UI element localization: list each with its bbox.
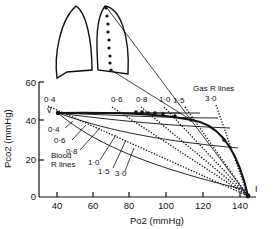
svg-text:140: 140 <box>232 200 248 211</box>
svg-text:3·0: 3·0 <box>205 94 217 103</box>
lung-diagram <box>56 6 128 78</box>
svg-text:80: 80 <box>124 200 135 211</box>
svg-text:0·4: 0·4 <box>48 125 60 134</box>
svg-text:1·0: 1·0 <box>159 95 171 104</box>
blood-r-title-2: R lines <box>51 160 75 169</box>
svg-text:0·6: 0·6 <box>54 136 66 145</box>
right-lung <box>97 6 128 74</box>
mixed-venous-point <box>56 111 60 115</box>
gas-r-lines <box>48 105 248 196</box>
inspired-label: I <box>255 184 258 194</box>
svg-text:1·0: 1·0 <box>88 158 100 167</box>
mixed-venous-label: v̄ <box>47 105 52 115</box>
blood-r-lines <box>58 113 246 190</box>
svg-text:0·8: 0·8 <box>136 95 148 104</box>
svg-text:0: 0 <box>31 191 36 202</box>
svg-text:60: 60 <box>25 77 36 88</box>
x-axis-label: Po2 (mmHg) <box>130 215 184 226</box>
blood-r-title-1: Blood <box>51 151 71 160</box>
svg-text:1·5: 1·5 <box>98 167 110 176</box>
svg-text:100: 100 <box>158 200 174 211</box>
blood-r-labels: 0·4 0·6 0·8 1·0 1·5 3·0 Blood R lines <box>48 125 127 178</box>
left-lung <box>56 6 92 78</box>
x-tick-labels: 40 60 80 100 120 140 <box>52 200 248 211</box>
svg-text:0·4: 0·4 <box>44 95 56 104</box>
lung-sample-points <box>104 6 112 71</box>
inspired-point <box>246 194 251 199</box>
svg-text:40: 40 <box>52 200 63 211</box>
o2-co2-diagram: 0 20 40 60 40 60 80 100 120 140 Po2 (mmH… <box>0 0 274 229</box>
y-axis-label: Pco2 (mmHg) <box>2 109 13 168</box>
svg-text:60: 60 <box>88 200 99 211</box>
gas-r-title: Gas R lines <box>193 84 234 93</box>
svg-text:0·6: 0·6 <box>111 95 123 104</box>
svg-text:120: 120 <box>195 200 211 211</box>
svg-text:40: 40 <box>25 115 36 126</box>
svg-text:1·5: 1·5 <box>173 96 185 105</box>
svg-text:20: 20 <box>25 154 36 165</box>
svg-text:3·0: 3·0 <box>115 169 127 178</box>
y-tick-labels: 0 20 40 60 <box>25 77 36 202</box>
